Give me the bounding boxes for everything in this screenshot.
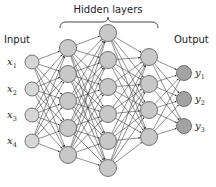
- hidden-3-node-1: [141, 49, 158, 66]
- edge: [157, 128, 176, 134]
- edge: [72, 41, 103, 94]
- edge: [39, 144, 60, 152]
- input-node-3: [25, 108, 39, 122]
- output-label-y2: y2: [194, 93, 205, 107]
- output-label-y1: y1: [194, 67, 205, 81]
- hidden-1-node-2: [60, 66, 77, 83]
- output-label-y3: y3: [194, 120, 205, 134]
- hidden-1-node-3: [60, 93, 77, 110]
- hidden-1-node-5: [60, 147, 77, 164]
- edge: [76, 36, 100, 45]
- hidden-1-node-1: [60, 40, 77, 57]
- edge: [115, 62, 142, 82]
- neural-network-diagram: Hidden layers Input Output x1x2x3x4y1y2y…: [0, 0, 216, 187]
- edge: [38, 77, 59, 86]
- edge: [39, 51, 60, 59]
- output-node-2: [177, 92, 192, 107]
- network-nodes: [25, 25, 192, 177]
- input-node-1: [25, 55, 39, 69]
- edge: [37, 94, 62, 121]
- edge: [157, 61, 177, 70]
- input-label-x4: x4: [7, 135, 17, 149]
- input-node-2: [25, 82, 39, 96]
- hidden-3-node-2: [141, 76, 158, 93]
- hidden-2-node-1: [100, 25, 117, 42]
- edge: [37, 81, 62, 110]
- edge: [37, 55, 62, 84]
- edge: [155, 79, 179, 104]
- input-label-x1: x1: [7, 56, 17, 70]
- output-node-1: [177, 66, 192, 81]
- input-label-x2: x2: [7, 83, 17, 97]
- edge: [37, 67, 62, 94]
- edge: [113, 117, 144, 161]
- input-label: Input: [4, 34, 30, 45]
- hidden-layers-label: Hidden layers: [74, 4, 143, 15]
- edge: [155, 105, 179, 131]
- hidden-2-node-6: [100, 160, 117, 177]
- hidden-3-node-4: [141, 129, 158, 146]
- hidden-1-node-4: [60, 120, 77, 137]
- edge: [115, 37, 141, 52]
- hidden-3-node-3: [141, 102, 158, 119]
- edge: [39, 131, 60, 139]
- hidden-2-node-4: [100, 106, 117, 123]
- edge: [39, 117, 60, 125]
- hidden-2-node-3: [100, 79, 117, 96]
- hidden-2-node-2: [100, 52, 117, 69]
- output-node-3: [177, 119, 192, 134]
- input-node-4: [25, 134, 39, 148]
- output-label: Output: [174, 34, 209, 45]
- edge: [76, 158, 99, 166]
- hidden-2-node-5: [100, 133, 117, 150]
- input-label-x3: x3: [7, 109, 17, 123]
